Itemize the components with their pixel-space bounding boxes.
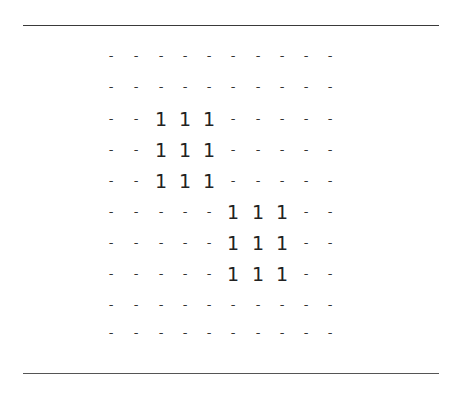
matrix-cell-empty: - <box>318 72 342 102</box>
matrix-cell-empty: - <box>318 41 342 71</box>
matrix-cell-empty: - <box>318 318 342 348</box>
matrix-cell-empty: - <box>149 259 173 289</box>
matrix-cell-empty: - <box>270 72 294 102</box>
matrix-cell-empty: - <box>197 197 221 227</box>
matrix-cell-one: 1 <box>246 197 270 227</box>
matrix-cell-one: 1 <box>197 135 221 165</box>
matrix-cell-empty: - <box>99 72 123 102</box>
matrix-cell-empty: - <box>197 290 221 320</box>
matrix-cell-empty: - <box>173 318 197 348</box>
matrix-cell-empty: - <box>318 290 342 320</box>
matrix-cell-empty: - <box>294 104 318 134</box>
matrix-cell-one: 1 <box>270 259 294 289</box>
matrix-cell-empty: - <box>149 197 173 227</box>
matrix-cell-one: 1 <box>221 259 245 289</box>
matrix-cell-empty: - <box>318 259 342 289</box>
matrix-cell-empty: - <box>124 166 148 196</box>
matrix-cell-one: 1 <box>173 166 197 196</box>
matrix-cell-empty: - <box>221 104 245 134</box>
matrix-cell-empty: - <box>124 228 148 258</box>
matrix-cell-empty: - <box>124 197 148 227</box>
bottom-rule <box>23 373 439 374</box>
matrix-cell-empty: - <box>270 41 294 71</box>
matrix-row: -----111-- <box>99 197 343 227</box>
matrix-cell-one: 1 <box>197 166 221 196</box>
matrix-cell-empty: - <box>173 259 197 289</box>
matrix-cell-empty: - <box>197 72 221 102</box>
matrix-row: ---------- <box>99 290 343 320</box>
matrix-cell-empty: - <box>318 166 342 196</box>
matrix-row: --111----- <box>99 166 343 196</box>
matrix-cell-empty: - <box>294 135 318 165</box>
matrix-cell-empty: - <box>246 72 270 102</box>
matrix-cell-empty: - <box>270 166 294 196</box>
matrix-cell-one: 1 <box>246 259 270 289</box>
matrix-cell-empty: - <box>197 259 221 289</box>
matrix-cell-empty: - <box>294 41 318 71</box>
matrix-cell-empty: - <box>149 228 173 258</box>
matrix-cell-empty: - <box>246 135 270 165</box>
matrix-cell-one: 1 <box>221 228 245 258</box>
matrix-cell-empty: - <box>124 259 148 289</box>
matrix-cell-empty: - <box>221 41 245 71</box>
matrix-row: --111----- <box>99 135 343 165</box>
matrix-cell-empty: - <box>221 135 245 165</box>
matrix-cell-empty: - <box>294 228 318 258</box>
matrix-cell-empty: - <box>221 166 245 196</box>
matrix-cell-empty: - <box>221 72 245 102</box>
matrix-cell-empty: - <box>221 290 245 320</box>
matrix-cell-empty: - <box>99 259 123 289</box>
matrix-cell-empty: - <box>270 318 294 348</box>
matrix-cell-one: 1 <box>173 104 197 134</box>
matrix-cell-empty: - <box>99 197 123 227</box>
matrix-cell-empty: - <box>294 197 318 227</box>
matrix-cell-empty: - <box>99 290 123 320</box>
matrix-cell-one: 1 <box>149 135 173 165</box>
matrix-cell-empty: - <box>99 318 123 348</box>
matrix-cell-one: 1 <box>221 197 245 227</box>
matrix-cell-empty: - <box>173 72 197 102</box>
matrix-cell-one: 1 <box>149 104 173 134</box>
matrix-cell-empty: - <box>197 318 221 348</box>
matrix-cell-empty: - <box>124 104 148 134</box>
matrix-row: -----111-- <box>99 259 343 289</box>
matrix-cell-empty: - <box>124 72 148 102</box>
matrix-row: ---------- <box>99 72 343 102</box>
matrix-row: ---------- <box>99 318 343 348</box>
matrix-cell-empty: - <box>197 41 221 71</box>
matrix-cell-one: 1 <box>270 197 294 227</box>
matrix-cell-empty: - <box>99 41 123 71</box>
matrix-cell-one: 1 <box>246 228 270 258</box>
matrix-cell-empty: - <box>173 197 197 227</box>
matrix-cell-empty: - <box>124 318 148 348</box>
matrix-cell-empty: - <box>246 290 270 320</box>
matrix-cell-empty: - <box>318 104 342 134</box>
matrix-cell-empty: - <box>246 166 270 196</box>
matrix-cell-empty: - <box>246 318 270 348</box>
matrix-cell-one: 1 <box>270 228 294 258</box>
matrix-cell-empty: - <box>294 72 318 102</box>
matrix-row: --111----- <box>99 104 343 134</box>
matrix-cell-empty: - <box>99 166 123 196</box>
matrix-cell-empty: - <box>99 135 123 165</box>
matrix-cell-empty: - <box>197 228 221 258</box>
matrix-cell-one: 1 <box>173 135 197 165</box>
matrix-cell-empty: - <box>124 290 148 320</box>
matrix-cell-empty: - <box>221 318 245 348</box>
matrix-cell-empty: - <box>294 318 318 348</box>
matrix-cell-one: 1 <box>197 104 221 134</box>
matrix-cell-empty: - <box>173 290 197 320</box>
top-rule <box>23 25 439 26</box>
matrix-cell-empty: - <box>270 135 294 165</box>
matrix-cell-empty: - <box>99 104 123 134</box>
matrix-row: -----111-- <box>99 228 343 258</box>
matrix-cell-empty: - <box>99 228 123 258</box>
matrix-cell-empty: - <box>294 166 318 196</box>
matrix-cell-empty: - <box>124 135 148 165</box>
matrix-cell-empty: - <box>149 41 173 71</box>
matrix-cell-empty: - <box>294 290 318 320</box>
matrix-cell-empty: - <box>318 228 342 258</box>
matrix-cell-one: 1 <box>149 166 173 196</box>
matrix-row: ---------- <box>99 41 343 71</box>
matrix-cell-empty: - <box>149 318 173 348</box>
